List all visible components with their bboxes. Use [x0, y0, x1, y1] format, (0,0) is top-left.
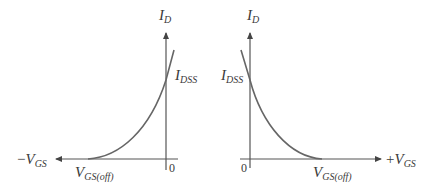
right-panel-graph: [240, 33, 381, 168]
left-vgs-off-label: VGS(off): [75, 165, 114, 182]
right-transfer-curve: [241, 50, 322, 159]
left-vgs-main: V: [25, 151, 34, 167]
right-vgs-sub: GS: [404, 158, 416, 169]
left-vgs-off-main: V: [75, 164, 84, 180]
right-vgs-off-sub: GS(off): [322, 171, 351, 182]
left-vgs-off-sub: GS(off): [84, 171, 113, 182]
left-id-label: ID: [159, 8, 171, 25]
left-origin-label: 0: [169, 162, 175, 174]
left-id-label-sub: D: [164, 14, 171, 25]
left-idss-label: IDSS: [175, 68, 197, 85]
transfer-characteristic-diagram: [0, 0, 429, 194]
right-origin-label: 0: [241, 162, 247, 174]
left-panel-graph: [56, 33, 178, 170]
right-id-label: ID: [247, 8, 259, 25]
right-vgs-main: V: [394, 151, 403, 167]
left-transfer-curve: [88, 50, 174, 159]
right-vgs-label: +VGS: [386, 152, 416, 169]
right-vgs-off-main: V: [313, 164, 322, 180]
left-idss-sub: DSS: [180, 74, 197, 85]
left-vgs-sub: GS: [35, 158, 47, 169]
right-idss-label: IDSS: [221, 68, 243, 85]
right-vgs-off-label: VGS(off): [313, 165, 352, 182]
left-vgs-label: −VGS: [17, 152, 47, 169]
right-idss-sub: DSS: [226, 74, 243, 85]
right-id-label-sub: D: [252, 14, 259, 25]
